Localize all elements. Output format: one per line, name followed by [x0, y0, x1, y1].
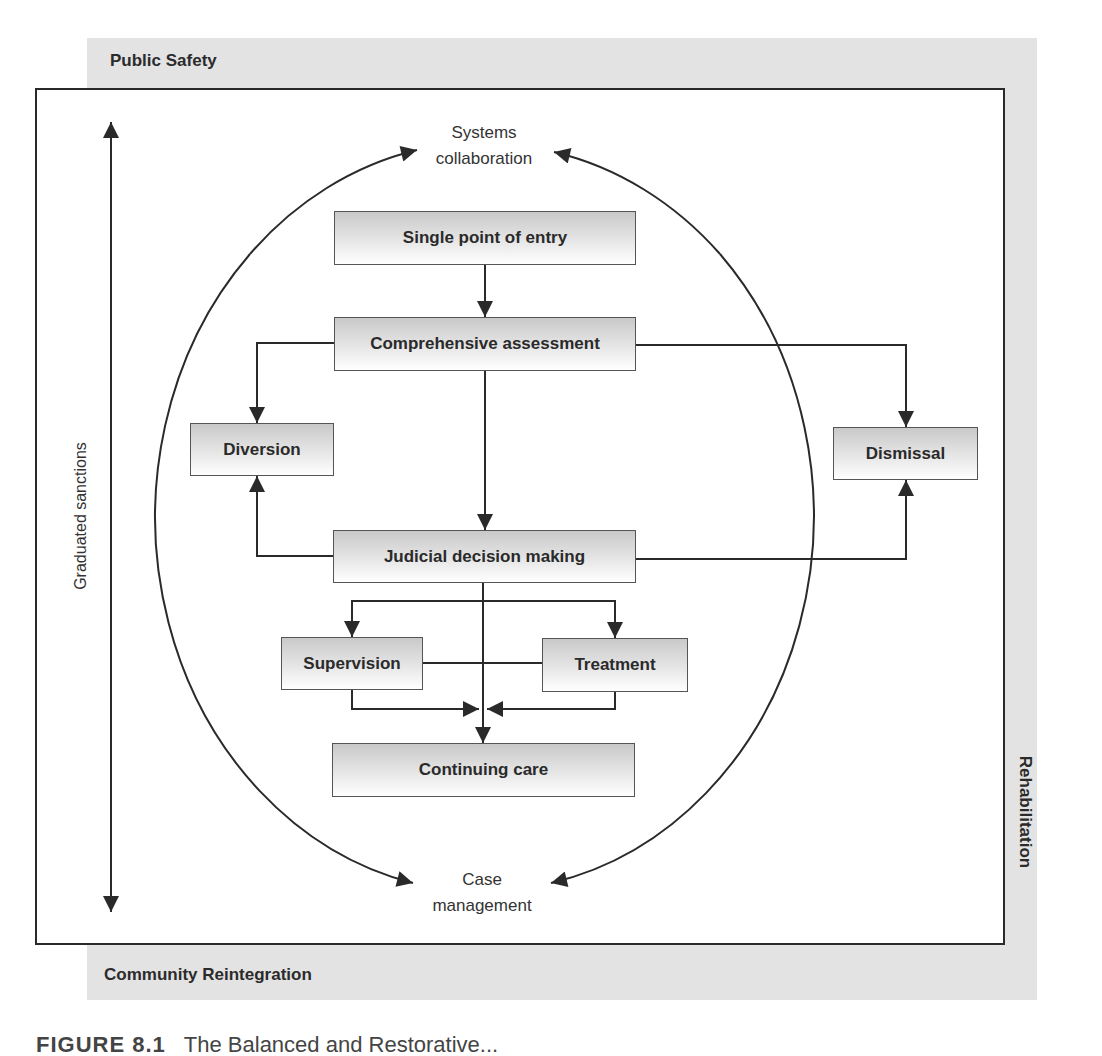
node-judicial-decision-making: Judicial decision making: [333, 530, 636, 583]
figure-caption: FIGURE 8.1The Balanced and Restorative..…: [36, 1032, 498, 1056]
systems-collaboration-line1: Systems: [436, 120, 532, 146]
figure-caption-text: The Balanced and Restorative...: [184, 1032, 498, 1056]
node-single-point-of-entry: Single point of entry: [334, 211, 636, 265]
node-comprehensive-assessment: Comprehensive assessment: [334, 317, 636, 371]
figure-number: FIGURE 8.1: [36, 1032, 166, 1056]
case-management-label: Case management: [432, 867, 531, 919]
node-supervision: Supervision: [281, 637, 423, 690]
node-treatment: Treatment: [542, 638, 688, 692]
case-management-line2: management: [432, 893, 531, 919]
case-management-line1: Case: [432, 867, 531, 893]
systems-collaboration-label: Systems collaboration: [436, 120, 532, 172]
node-continuing-care: Continuing care: [332, 743, 635, 797]
systems-collaboration-line2: collaboration: [436, 146, 532, 172]
node-dismissal: Dismissal: [833, 427, 978, 480]
node-diversion: Diversion: [190, 423, 334, 476]
